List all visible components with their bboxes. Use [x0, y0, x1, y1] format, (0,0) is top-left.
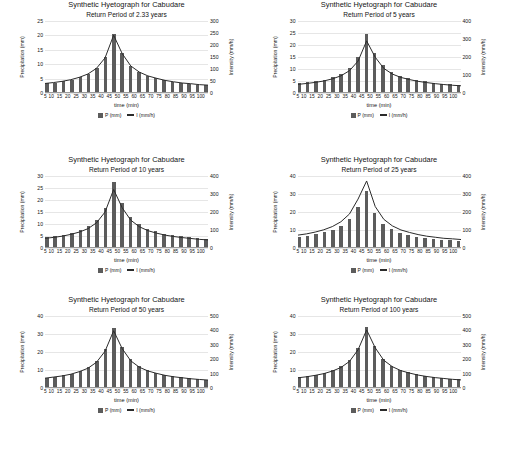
plot-canvas — [298, 316, 461, 388]
chart-title: Synthetic Hyetograph for Cabudare — [253, 155, 505, 165]
x-tick-label: 100 — [197, 94, 205, 103]
x-tick-label: 60 — [384, 94, 389, 103]
x-tick-label: 60 — [131, 94, 136, 103]
chart-title: Synthetic Hyetograph for Cabudare — [0, 155, 253, 165]
bar — [62, 235, 66, 247]
y-tick-right: 200 — [210, 357, 219, 362]
x-tick-label: 95 — [442, 389, 447, 398]
y-tick-right: 300 — [210, 19, 219, 24]
bar — [457, 241, 461, 247]
y-tick-right: 0 — [210, 246, 213, 251]
legend-label-intensity: I (mm/h) — [389, 112, 408, 118]
bar — [137, 366, 141, 387]
x-tick-label: 25 — [326, 249, 331, 258]
x-tick-label: 95 — [442, 249, 447, 258]
bar — [356, 207, 360, 248]
y-tick-left: 30 — [290, 19, 296, 24]
y-tick-left: 5 — [40, 76, 43, 81]
y-tick-left: 20 — [37, 198, 43, 203]
y-tick-right: 200 — [210, 210, 219, 215]
bar — [331, 77, 335, 92]
plot-area: Precipitation (mm)Intensity (mm/h)010203… — [19, 316, 234, 388]
y-axis-label-left-text: Precipitation (mm) — [272, 331, 278, 372]
y-axis-label-right: Intensity (mm/h) — [479, 21, 489, 93]
bar — [390, 229, 394, 247]
bar — [87, 74, 91, 92]
x-tick-label: 25 — [73, 94, 78, 103]
legend-label-precipitation: P (mm) — [105, 112, 121, 118]
x-tick-label: 45 — [359, 389, 364, 398]
legend-swatch-line-icon — [127, 269, 134, 271]
bar — [146, 370, 150, 387]
x-tick-label: 10 — [48, 94, 53, 103]
legend-label-intensity: I (mm/h) — [389, 267, 408, 273]
bar — [204, 239, 208, 247]
bar — [423, 376, 427, 387]
x-tick-label: 35 — [90, 94, 95, 103]
y-axis-label-left: Precipitation (mm) — [17, 21, 27, 93]
bar — [356, 348, 360, 387]
x-tick-labels: 5101520253035404550556065707580859095100 — [298, 94, 461, 103]
x-tick-label: 90 — [181, 249, 186, 258]
bar — [348, 219, 352, 247]
x-tick-label: 80 — [165, 249, 170, 258]
bar — [457, 379, 461, 387]
bar — [154, 78, 158, 92]
x-tick-label: 20 — [65, 389, 70, 398]
x-tick-label: 95 — [190, 249, 195, 258]
y-tick-left: 0 — [293, 386, 296, 391]
bar — [448, 84, 452, 92]
x-tick-label: 65 — [392, 389, 397, 398]
y-axis-label-right-text: Intensity (mm/h) — [481, 39, 487, 76]
x-tick-label: 5 — [296, 249, 299, 258]
bar — [62, 81, 66, 92]
x-tick-label: 45 — [359, 94, 364, 103]
bar — [381, 359, 385, 387]
bar — [187, 84, 191, 92]
plot-canvas — [45, 316, 208, 388]
x-tick-label: 5 — [44, 389, 47, 398]
x-tick-label: 55 — [376, 389, 381, 398]
x-tick-label: 90 — [434, 249, 439, 258]
bar — [306, 82, 310, 92]
plot-area: Precipitation (mm)Intensity (mm/h)051015… — [19, 21, 234, 93]
bar — [323, 80, 327, 92]
legend-item-precipitation: P (mm) — [98, 267, 121, 273]
plot-area: Precipitation (mm)Intensity (mm/h)010203… — [272, 316, 487, 388]
x-tick-label: 100 — [449, 94, 457, 103]
bar — [95, 361, 99, 387]
x-tick-label: 85 — [425, 94, 430, 103]
x-tick-label: 50 — [115, 249, 120, 258]
y-ticks-right: 0100200300400 — [463, 176, 479, 248]
y-tick-right: 100 — [210, 67, 219, 72]
bar — [187, 378, 191, 387]
bar — [423, 81, 427, 92]
bar — [373, 346, 377, 387]
x-tick-label: 25 — [326, 389, 331, 398]
x-tick-label: 70 — [148, 389, 153, 398]
bar — [331, 230, 335, 247]
chart-panel-1: Synthetic Hyetograph for CabudareReturn … — [0, 0, 253, 155]
chart-legend: P (mm)I (mm/h) — [0, 407, 253, 413]
y-tick-left: 10 — [37, 222, 43, 227]
y-tick-left: 40 — [290, 314, 296, 319]
y-axis-label-left-text: Precipitation (mm) — [19, 191, 25, 232]
bar — [323, 232, 327, 247]
bar — [440, 240, 444, 247]
y-ticks-right: 0100200300400500 — [463, 316, 479, 388]
bar — [62, 375, 66, 387]
bar — [70, 233, 74, 247]
chart-panel-3: Synthetic Hyetograph for CabudareReturn … — [0, 155, 253, 295]
bar — [53, 83, 57, 93]
x-tick-label: 80 — [417, 94, 422, 103]
legend-item-precipitation: P (mm) — [351, 407, 374, 413]
x-tick-labels: 5101520253035404550556065707580859095100 — [298, 249, 461, 258]
bar — [112, 328, 116, 387]
legend-item-intensity: I (mm/h) — [127, 407, 155, 413]
bar — [432, 239, 436, 247]
y-tick-right: 300 — [210, 342, 219, 347]
bar — [406, 235, 410, 247]
y-tick-left: 20 — [37, 350, 43, 355]
legend-item-precipitation: P (mm) — [98, 112, 121, 118]
x-tick-label: 75 — [156, 249, 161, 258]
